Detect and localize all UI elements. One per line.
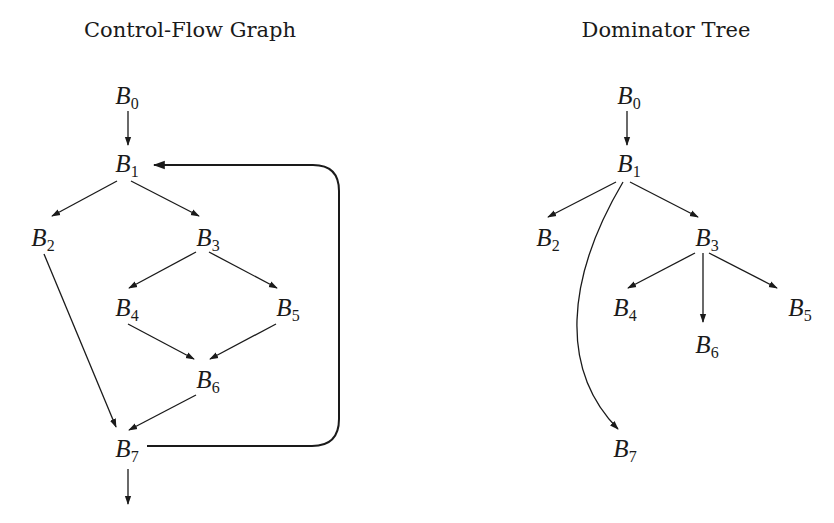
cfg-node-b3: B3 xyxy=(196,225,219,254)
dt-node-b3: B3 xyxy=(695,225,718,254)
cfg-node-b4: B4 xyxy=(115,295,138,324)
edge-cfg-b1-b2 xyxy=(52,181,117,216)
edge-cfg-b6-b7 xyxy=(129,395,196,430)
edge-cfg-b7-b1-backedge xyxy=(147,165,339,446)
cfg-node-b6: B6 xyxy=(196,367,219,396)
edge-dt-b1-b2 xyxy=(548,182,616,217)
edge-cfg-b2-b7 xyxy=(44,254,116,427)
cfg-node-b7: B7 xyxy=(115,436,138,465)
edge-cfg-b3-b4 xyxy=(129,252,196,288)
dt-node-b5: B5 xyxy=(788,295,811,324)
dt-node-b0: B0 xyxy=(617,83,640,112)
dt-node-b2: B2 xyxy=(536,225,559,254)
edge-cfg-b4-b6 xyxy=(128,324,194,359)
edge-cfg-b5-b6 xyxy=(210,324,276,359)
cfg-node-b2: B2 xyxy=(31,225,54,254)
edge-dt-b3-b4 xyxy=(628,253,695,288)
cfg-node-b5: B5 xyxy=(276,295,299,324)
edge-dt-b3-b5 xyxy=(709,253,777,288)
edge-dt-b1-b3 xyxy=(630,182,698,217)
edge-cfg-b1-b3 xyxy=(131,181,199,216)
dt-node-b6: B6 xyxy=(695,332,718,361)
dt-node-b7: B7 xyxy=(613,436,636,465)
cfg-node-b0: B0 xyxy=(115,83,138,112)
dt-node-b4: B4 xyxy=(613,295,636,324)
cfg-node-b1: B1 xyxy=(115,151,138,180)
edge-cfg-b3-b5 xyxy=(209,252,277,288)
dt-node-b1: B1 xyxy=(617,151,640,180)
